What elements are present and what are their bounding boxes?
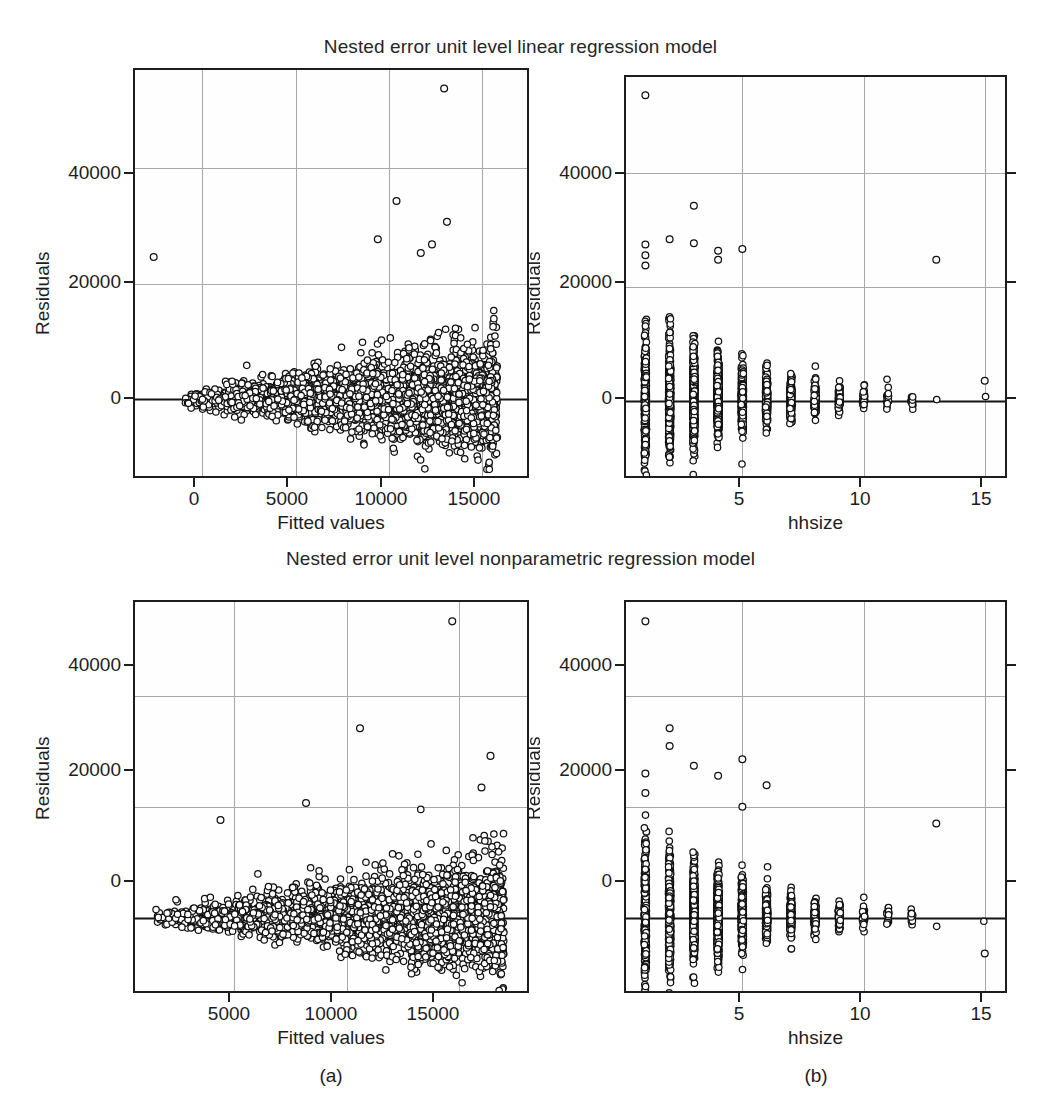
top-figure-title: Nested error unit level linear regressio… [0,36,1041,58]
scatter-points-bottom-right [626,602,1007,993]
scatter-points-bottom-left [135,602,529,993]
yaxis-label-tr: Residuals [523,252,545,335]
xtick-10000-tl [380,478,382,487]
ytick-40000-right-br [1007,664,1016,666]
xtick-15-br [980,993,982,1002]
subcaption-b: (b) [804,1065,827,1087]
xtick-label-5-br: 5 [734,1003,745,1025]
xtick-label-15-tr: 15 [970,488,991,510]
ytick-label-40000-bl: 40000 [45,654,121,676]
xtick-label-10-tr: 10 [849,488,870,510]
yaxis-label-br: Residuals [523,737,545,820]
xtick-label-5000-bl: 5000 [208,1003,250,1025]
ytick-label-0-tr: 0 [536,387,612,409]
ytick-40000-br [615,664,624,666]
ytick-label-0-tl: 0 [45,387,121,409]
plot-area-bottom-left [133,600,529,993]
plot-area-top-right [624,75,1007,478]
ytick-0-tr [615,397,624,399]
ytick-20000-right-br [1007,769,1016,771]
ytick-40000-bl [124,664,133,666]
xtick-5-tr [738,478,740,487]
xtick-5000-tl [286,478,288,487]
ytick-20000-br [615,769,624,771]
bottom-figure-title: Nested error unit level nonparametric re… [0,548,1041,570]
ytick-label-40000-tl: 40000 [45,162,121,184]
ytick-40000-right-tr [1007,172,1016,174]
xtick-label-5000-tl: 5000 [266,488,308,510]
xtick-label-10000-bl: 10000 [305,1003,358,1025]
ytick-0-tl [124,397,133,399]
figure-root: Nested error unit level linear regressio… [0,0,1041,1118]
ytick-label-0-br: 0 [536,870,612,892]
xtick-label-15000-bl: 15000 [407,1003,460,1025]
ytick-40000-tl [124,172,133,174]
xtick-5000-bl [228,993,230,1002]
yaxis-label-bl: Residuals [32,737,54,820]
xtick-15000-tl [473,478,475,487]
xtick-label-10000-tl: 10000 [355,488,408,510]
xaxis-label-tl: Fitted values [133,512,529,534]
subcaption-a: (a) [319,1065,342,1087]
xtick-10000-bl [330,993,332,1002]
scatter-points-top-left [135,70,529,478]
xtick-15000-bl [432,993,434,1002]
xaxis-label-tr: hhsize [624,512,1007,534]
ytick-label-20000-bl: 20000 [45,759,121,781]
ytick-label-40000-br: 40000 [536,654,612,676]
xtick-15-tr [980,478,982,487]
ytick-label-20000-tl: 20000 [45,271,121,293]
xtick-label-15-br: 15 [970,1003,991,1025]
xaxis-label-bl: Fitted values [133,1027,529,1049]
ytick-0-bl [124,880,133,882]
xtick-label-10-br: 10 [849,1003,870,1025]
ytick-20000-tr [615,281,624,283]
ytick-0-right-br [1007,880,1016,882]
yaxis-label-tl: Residuals [32,252,54,335]
plot-area-bottom-right [624,600,1007,993]
xtick-label-5-tr: 5 [734,488,745,510]
xtick-label-15000-tl: 15000 [448,488,501,510]
xtick-10-br [859,993,861,1002]
ytick-0-right-tr [1007,397,1016,399]
ytick-40000-tr [615,172,624,174]
xaxis-label-br: hhsize [624,1027,1007,1049]
ytick-label-20000-br: 20000 [536,759,612,781]
xtick-10-tr [859,478,861,487]
ytick-20000-tl [124,281,133,283]
ytick-20000-bl [124,769,133,771]
ytick-label-20000-tr: 20000 [536,271,612,293]
plot-area-top-left [133,68,529,478]
ytick-20000-right-tr [1007,281,1016,283]
xtick-0-tl [193,478,195,487]
xtick-label-0-tl: 0 [189,488,200,510]
ytick-label-0-bl: 0 [45,870,121,892]
ytick-0-br [615,880,624,882]
scatter-points-top-right [626,77,1007,478]
xtick-5-br [738,993,740,1002]
ytick-label-40000-tr: 40000 [536,162,612,184]
